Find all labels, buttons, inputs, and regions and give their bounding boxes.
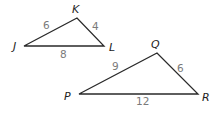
vertex-label-l: L [109, 41, 115, 54]
side-length-jk: 6 [43, 19, 50, 31]
vertex-label-q: Q [151, 38, 160, 51]
triangle-jkl: J K L 6 4 8 [11, 3, 115, 60]
triangle-pqr: P Q R 9 6 12 [64, 38, 210, 107]
vertex-label-k: K [72, 3, 80, 16]
side-length-pq: 9 [112, 60, 119, 72]
side-length-kl: 4 [92, 20, 99, 32]
vertex-label-r: R [202, 91, 210, 104]
vertex-label-j: J [11, 40, 16, 53]
vertex-label-p: P [64, 90, 71, 103]
side-length-pr: 12 [136, 95, 149, 107]
similar-triangles-diagram: J K L 6 4 8 P Q R 9 6 12 [0, 0, 216, 118]
side-length-qr: 6 [177, 62, 184, 74]
side-length-jl: 8 [60, 48, 67, 60]
